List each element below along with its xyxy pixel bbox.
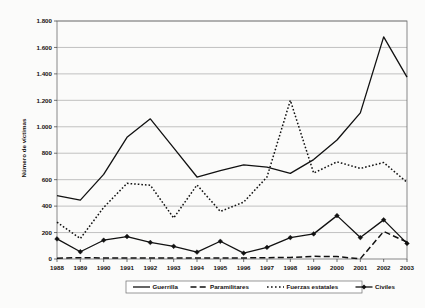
chart-legend: GuerrillaParamilitaresFuerzas estatalesC… (126, 281, 396, 293)
x-tick-label: 2000 (330, 264, 344, 271)
data-point-marker (125, 234, 130, 239)
x-tick-label: 2001 (353, 264, 367, 271)
legend-label-civiles: Civiles (375, 283, 396, 290)
data-series-group (55, 37, 410, 259)
data-point-marker (195, 250, 200, 255)
y-tick-label: 0 (49, 255, 53, 262)
x-tick-label: 1994 (190, 264, 204, 271)
x-tick-label: 2002 (377, 264, 391, 271)
data-point-marker (218, 239, 223, 244)
series-line-civiles (57, 216, 407, 254)
plot-frame (57, 21, 407, 259)
data-point-marker (171, 244, 176, 249)
y-tick-label: 1.600 (37, 44, 53, 51)
data-point-marker (148, 240, 153, 245)
x-tick-label: 2003 (400, 264, 414, 271)
y-tick-label: 200 (42, 229, 53, 236)
data-point-marker (55, 237, 60, 242)
y-tick-label: 1.200 (37, 97, 53, 104)
y-tick-label: 600 (42, 176, 53, 183)
series-line-guerrilla (57, 37, 407, 200)
y-tick-label: 400 (42, 202, 53, 209)
y-tick-label: 1.800 (37, 17, 53, 24)
x-tick-label: 1990 (97, 264, 111, 271)
legend-label-paramilitares: Paramilitares (210, 283, 249, 290)
legend-label-fuerzas-estatales: Fuerzas estatales (287, 283, 339, 290)
data-point-marker (101, 238, 106, 243)
x-tick-label: 1991 (120, 264, 134, 271)
victims-line-chart: 02004006008001.0001.2001.4001.6001.800 1… (0, 0, 425, 308)
x-tick-label: 1997 (260, 264, 274, 271)
x-tick-marks (57, 259, 407, 262)
x-tick-label: 1993 (167, 264, 181, 271)
y-tick-label: 1.400 (37, 70, 53, 77)
y-tick-label: 1.000 (37, 123, 53, 130)
legend-label-guerrilla: Guerrilla (153, 283, 179, 290)
x-tick-label: 1995 (213, 264, 227, 271)
x-tick-label: 1999 (307, 264, 321, 271)
series-line-paramilitares (57, 232, 407, 259)
series-line-fuerzas-estatales (57, 100, 407, 238)
data-point-marker (241, 251, 246, 256)
x-tick-label: 1996 (237, 264, 251, 271)
x-tick-label: 1998 (283, 264, 297, 271)
x-axis-tick-labels: 1988198919901991199219931994199519961997… (50, 264, 414, 271)
y-axis-tick-labels: 02004006008001.0001.2001.4001.6001.800 (37, 17, 53, 262)
data-point-marker (288, 235, 293, 240)
y-axis-title: Número de víctimas (20, 118, 27, 177)
data-point-marker (265, 245, 270, 250)
data-point-marker (78, 249, 83, 254)
x-tick-label: 1988 (50, 264, 64, 271)
chart-container: 02004006008001.0001.2001.4001.6001.800 1… (0, 0, 425, 308)
y-tick-label: 800 (42, 149, 53, 156)
x-tick-label: 1992 (143, 264, 157, 271)
x-tick-label: 1989 (73, 264, 87, 271)
y-tick-marks (54, 21, 57, 259)
